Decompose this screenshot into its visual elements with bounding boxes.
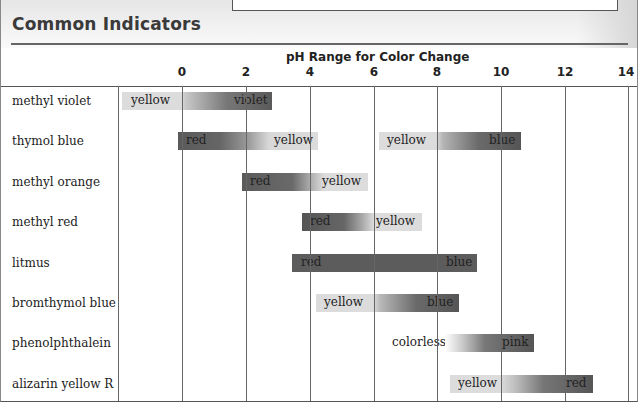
- tick-0: 0: [178, 65, 186, 79]
- bar-thymol-blue-base: yellow blue: [379, 132, 521, 150]
- gridline-10: [501, 86, 502, 402]
- label-column-divider: [118, 86, 119, 402]
- bar-label-high: pink: [502, 335, 529, 349]
- tick-2: 2: [242, 65, 250, 79]
- gridline-0: [182, 86, 183, 402]
- bar-label-high: blue: [489, 133, 515, 147]
- tick-14: 14: [618, 65, 635, 79]
- tick-10: 10: [493, 65, 510, 79]
- table-top-border: [0, 86, 637, 87]
- bar-methyl-orange: red yellow: [242, 173, 368, 191]
- bar-label-high: yellow: [322, 174, 361, 188]
- row-label-bromthymol-blue: bromthymol blue: [12, 296, 116, 310]
- bar-label-low: red: [250, 174, 271, 188]
- bar-methyl-red: red yellow: [302, 213, 422, 231]
- bar-label-high: blue: [427, 295, 453, 309]
- axis-title: pH Range for Color Change: [286, 50, 469, 64]
- bar-label-low: red: [186, 133, 207, 147]
- tick-4: 4: [306, 65, 314, 79]
- bar-methyl-violet: yellow violet: [122, 92, 272, 110]
- row-label-thymol-blue: thymol blue: [12, 134, 84, 148]
- bar-thymol-blue-acid: red yellow: [178, 132, 318, 150]
- bar-label-low: yellow: [387, 133, 426, 147]
- header-box: [232, 0, 618, 11]
- gridline-14: [628, 86, 629, 402]
- gridline-4: [310, 86, 311, 402]
- gridline-8: [437, 86, 438, 402]
- bar-label-low: yellow: [131, 93, 170, 107]
- bar-label-low: red: [301, 255, 322, 269]
- bar-label-low: yellow: [458, 376, 497, 390]
- row-label-methyl-red: methyl red: [12, 215, 78, 229]
- row-label-phenolphthalein: phenolphthalein: [12, 336, 111, 350]
- title-rule: [11, 43, 628, 45]
- tick-6: 6: [370, 65, 378, 79]
- row-label-alizarin-yellow-r: alizarin yellow R: [12, 377, 113, 391]
- gridline-12: [565, 86, 566, 402]
- bar-phenolphthalein: pink: [445, 334, 534, 352]
- tick-12: 12: [557, 65, 574, 79]
- bar-label-high: yellow: [274, 133, 313, 147]
- bar-label-high: red: [566, 376, 587, 390]
- bar-label-high: blue: [446, 255, 472, 269]
- bar-label-high: violet: [234, 93, 268, 107]
- page-title: Common Indicators: [12, 14, 201, 34]
- tick-8: 8: [433, 65, 441, 79]
- row-label-methyl-orange: methyl orange: [12, 175, 100, 189]
- gridline-2: [246, 86, 247, 402]
- bar-litmus: red blue: [292, 254, 477, 272]
- row-label-methyl-violet: methyl violet: [12, 94, 91, 108]
- bar-label-high: yellow: [376, 214, 415, 228]
- gridline-6: [374, 86, 375, 402]
- bar-alizarin-yellow-r: yellow red: [450, 375, 593, 393]
- row-label-litmus: litmus: [12, 256, 50, 270]
- bar-label-low: red: [310, 214, 331, 228]
- bar-label-low: yellow: [324, 295, 363, 309]
